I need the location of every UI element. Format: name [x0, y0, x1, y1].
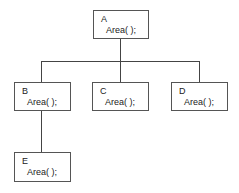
node-e-method: Area( );	[27, 167, 57, 177]
node-e: E Area( );	[14, 152, 71, 182]
edge-a-trunk	[120, 38, 121, 62]
edge-a-c	[120, 61, 121, 82]
node-d-method: Area( );	[184, 97, 214, 107]
node-d: D Area( );	[171, 82, 228, 111]
node-e-name: E	[22, 156, 28, 166]
node-a-method: Area( );	[106, 25, 136, 35]
edge-a-b	[41, 61, 42, 82]
edge-a-d	[199, 61, 200, 82]
node-c-name: C	[100, 86, 107, 96]
node-b-method: Area( );	[27, 97, 57, 107]
node-a-name: A	[101, 14, 107, 24]
node-c: C Area( );	[92, 82, 149, 111]
node-c-method: Area( );	[105, 97, 135, 107]
edge-b-e	[41, 110, 42, 152]
node-b-name: B	[22, 86, 28, 96]
node-b: B Area( );	[14, 82, 71, 111]
node-d-name: D	[179, 86, 186, 96]
node-a: A Area( );	[93, 10, 149, 39]
